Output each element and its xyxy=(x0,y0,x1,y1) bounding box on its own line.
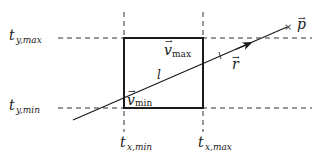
label-t-y-max: t y,max xyxy=(9,27,42,45)
svg-text:p: p xyxy=(297,16,306,32)
svg-text:v: v xyxy=(164,42,172,58)
label-t-x-max: t x,max xyxy=(198,134,232,152)
label-v-max: → v max xyxy=(164,36,191,59)
label-v-min: → v min xyxy=(127,86,152,108)
svg-text:y,min: y,min xyxy=(15,105,40,115)
svg-text:t: t xyxy=(120,134,126,150)
point-marker-icon: × xyxy=(284,21,292,32)
svg-text:t: t xyxy=(198,134,204,150)
svg-text:x,max: x,max xyxy=(205,142,232,152)
label-r: → r xyxy=(232,52,240,72)
svg-text:y,max: y,max xyxy=(15,35,42,45)
ray-box-intersection-diagram: × t y,max t y,min t x,min t x,max → v ma… xyxy=(0,0,325,159)
label-p: → p xyxy=(297,13,306,32)
label-t-x-min: t x,min xyxy=(120,134,152,152)
svg-text:max: max xyxy=(172,49,191,59)
svg-text:min: min xyxy=(135,98,152,108)
ray-direction-arrow-icon xyxy=(236,44,248,49)
ray-line xyxy=(73,27,287,120)
svg-text:v: v xyxy=(127,92,135,108)
svg-text:t: t xyxy=(9,97,15,113)
svg-text:t: t xyxy=(9,27,15,43)
svg-text:x,min: x,min xyxy=(127,142,152,152)
label-t-y-min: t y,min xyxy=(9,97,40,115)
label-l: l xyxy=(157,68,161,82)
